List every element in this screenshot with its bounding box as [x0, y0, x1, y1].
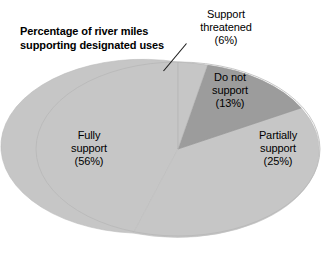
slice-label-fully-support: Fully support (56%)	[48, 129, 130, 168]
pie-chart-figure: Percentage of river miles supporting des…	[0, 0, 330, 255]
slice-label-do-not-support: Do not support (13%)	[192, 71, 268, 110]
chart-title: Percentage of river miles supporting des…	[20, 25, 200, 52]
slice-label-partially-support: Partially support (25%)	[236, 129, 320, 168]
slice-label-support-threatened: Support threatened (6%)	[178, 8, 274, 47]
